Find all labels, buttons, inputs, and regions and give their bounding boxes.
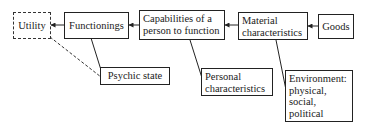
node-personal-characteristics: Personal characteristics bbox=[201, 68, 273, 96]
link-utility-psychic-dashed bbox=[50, 37, 101, 77]
material-line1: Material bbox=[242, 15, 304, 27]
psychic-state-label: Psychic state bbox=[108, 70, 163, 82]
node-capabilities: Capabilities of a person to function bbox=[139, 10, 225, 40]
environment-line1: Environment: bbox=[289, 73, 349, 85]
personal-line2: characteristics bbox=[205, 83, 269, 95]
node-goods: Goods bbox=[318, 14, 354, 39]
material-line2: characteristics bbox=[242, 27, 304, 39]
node-utility: Utility bbox=[13, 12, 51, 39]
capabilities-line2: person to function bbox=[143, 25, 221, 37]
environment-line4: political bbox=[289, 108, 349, 120]
goods-label: Goods bbox=[322, 21, 349, 33]
node-environment: Environment: physical, social, political bbox=[285, 70, 353, 122]
node-psychic-state: Psychic state bbox=[100, 67, 170, 85]
environment-line3: social, bbox=[289, 96, 349, 108]
link-functionings-psychic bbox=[91, 38, 101, 70]
node-functionings: Functionings bbox=[64, 12, 129, 39]
functionings-label: Functionings bbox=[69, 20, 124, 32]
utility-label: Utility bbox=[18, 20, 45, 32]
environment-line2: physical, bbox=[289, 85, 349, 97]
personal-line1: Personal bbox=[205, 71, 269, 83]
capabilities-line1: Capabilities of a bbox=[143, 13, 221, 25]
node-material: Material characteristics bbox=[238, 12, 308, 40]
